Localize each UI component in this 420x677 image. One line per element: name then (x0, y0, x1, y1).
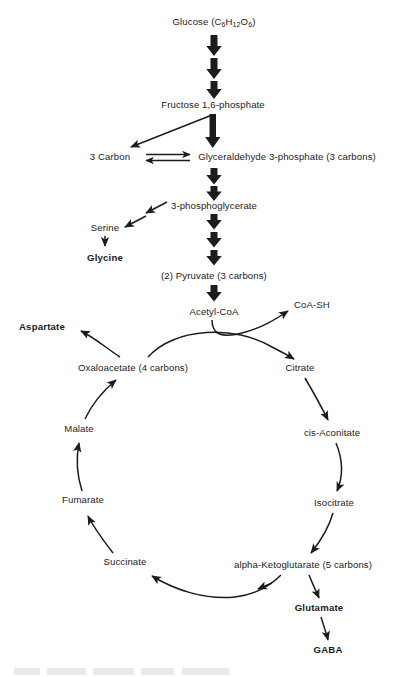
edge-fructose-to-three-carbon (131, 115, 212, 147)
node-alpha-ketoglutarate: alpha-Ketoglutarate (5 carbons) (234, 559, 372, 570)
node-aspartate: Aspartate (19, 321, 65, 332)
edge-cis-aconitate-to-isocitrate (336, 443, 341, 491)
edge-curve (148, 332, 294, 359)
node-pyruvate: (2) Pyruvate (3 carbons) (161, 270, 267, 281)
node-glycine: Glycine (87, 252, 123, 263)
node-glucose-o: O (241, 16, 249, 27)
node-glucose: Glucose (C6H12O6) (173, 16, 256, 28)
fat-arrow-glyph (205, 114, 220, 148)
edge-line (131, 115, 212, 147)
edge-line-outer (146, 202, 167, 213)
edge-pg3-to-serine (125, 202, 167, 227)
edge-curve (309, 575, 319, 598)
cropped-caption-strip (14, 668, 314, 675)
node-glyceraldehyde-3-phosphate: Glyceraldehyde 3-phosphate (3 carbons) (198, 151, 376, 162)
edge-glucose-to-fructose (206, 35, 221, 99)
fat-arrow-glyph (206, 214, 221, 230)
edge-oxaloacetate-to-aspartate (81, 331, 120, 357)
node-isocitrate: Isocitrate (314, 497, 354, 508)
node-glucose-h: H (226, 16, 233, 27)
node-cis-aconitate: cis-Aconitate (304, 427, 360, 438)
edge-isocitrate-to-akg (311, 513, 333, 553)
node-succinate: Succinate (103, 556, 146, 567)
node-malate: Malate (64, 423, 93, 434)
edge-curve (311, 513, 333, 553)
node-oxaloacetate: Oxaloacetate (4 carbons) (78, 362, 188, 373)
node-glucose-sub-h: 12 (233, 20, 241, 27)
node-three-carbon: 3 Carbon (90, 151, 130, 162)
fat-arrow-glyph (206, 168, 221, 185)
edge-succinate-to-fumarate (88, 516, 113, 553)
node-fumarate: Fumarate (62, 494, 104, 505)
node-serine: Serine (91, 222, 119, 233)
edge-curve (336, 443, 341, 491)
edge-akg-to-glutamate (309, 575, 319, 598)
node-gaba: GABA (313, 644, 342, 655)
node-acetyl-coa: Acetyl-CoA (190, 306, 239, 317)
fat-arrow-glyph (206, 232, 221, 248)
edge-pyruvate-to-acetyl-coa (206, 285, 221, 302)
pathway-svg: Glucose (C6H12O6) Fructose 1,6-phosphate… (0, 0, 420, 677)
edge-akg-to-succinate (152, 575, 281, 598)
fat-arrow-glyph (206, 285, 221, 302)
node-glutamate: Glutamate (295, 602, 344, 613)
fat-arrow-glyph (206, 81, 221, 99)
edge-fructose-to-g3p (205, 114, 220, 148)
pathway-diagram: Glucose (C6H12O6) Fructose 1,6-phosphate… (0, 0, 420, 677)
node-glucose-text: Glucose (C (173, 16, 222, 27)
edge-curve (88, 516, 113, 553)
fat-arrow-glyph (206, 58, 221, 79)
fat-arrow-glyph (206, 35, 221, 56)
edge-curve (81, 331, 120, 357)
edge-oxaloacetate-to-citrate (148, 332, 294, 359)
edge-curve (152, 575, 281, 598)
edge-line-inner (125, 216, 146, 227)
node-citrate: Citrate (286, 362, 315, 373)
edge-glutamate-to-gaba (321, 617, 328, 640)
edge-malate-to-oxaloacetate (85, 380, 116, 419)
edge-pg3-to-pyruvate (206, 214, 221, 266)
edge-three-carbon-g3p-equilibrium (146, 155, 190, 161)
edge-curve (305, 378, 328, 420)
node-glucose-paren: ) (252, 16, 255, 27)
fat-arrow-glyph (206, 250, 221, 266)
node-fructose-1-6-phosphate: Fructose 1,6-phosphate (161, 99, 265, 110)
node-coa-sh: CoA-SH (294, 299, 330, 310)
edge-curve (85, 380, 116, 419)
edge-fumarate-to-malate (77, 443, 82, 491)
edge-curve (321, 617, 328, 640)
edge-citrate-to-cis-aconitate (305, 378, 328, 420)
edge-g3p-to-pg3 (206, 168, 221, 201)
edge-curve (77, 443, 82, 491)
node-3-phosphoglycerate: 3-phosphoglycerate (171, 200, 257, 211)
